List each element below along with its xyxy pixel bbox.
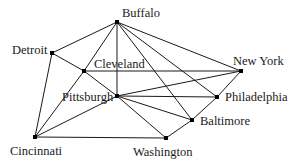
- node-label-baltimore: Baltimore: [200, 115, 250, 128]
- node-detroit: [50, 51, 54, 55]
- node-newyork: [239, 69, 243, 73]
- edge-pittsburgh-baltimore: [117, 96, 192, 120]
- node-buffalo: [115, 20, 119, 24]
- edge-detroit-cleveland: [52, 53, 84, 71]
- graph-canvas: [0, 0, 296, 165]
- edge-pittsburgh-philadelphia: [117, 96, 217, 97]
- node-cleveland: [82, 69, 86, 73]
- node-label-philadelphia: Philadelphia: [225, 91, 288, 104]
- node-baltimore: [190, 118, 194, 122]
- edge-buffalo-detroit: [52, 22, 117, 53]
- node-label-cleveland: Cleveland: [94, 58, 145, 71]
- node-pittsburgh: [115, 94, 119, 98]
- edge-detroit-cincinnati: [35, 53, 52, 137]
- node-label-pittsburgh: Pittsburgh: [62, 91, 113, 104]
- node-philadelphia: [215, 95, 219, 99]
- node-washington: [164, 136, 168, 140]
- node-label-detroit: Detroit: [12, 44, 47, 57]
- node-label-cincinnati: Cincinnati: [10, 145, 62, 158]
- edge-cleveland-cincinnati: [35, 71, 84, 137]
- node-cincinnati: [33, 135, 37, 139]
- edge-pittsburgh-washington: [117, 96, 166, 138]
- node-label-newyork: New York: [233, 55, 284, 68]
- edge-cincinnati-washington: [35, 137, 166, 138]
- edge-pittsburgh-newyork: [117, 71, 241, 96]
- node-label-buffalo: Buffalo: [122, 7, 160, 20]
- node-label-washington: Washington: [133, 146, 192, 159]
- edge-baltimore-washington: [166, 120, 192, 138]
